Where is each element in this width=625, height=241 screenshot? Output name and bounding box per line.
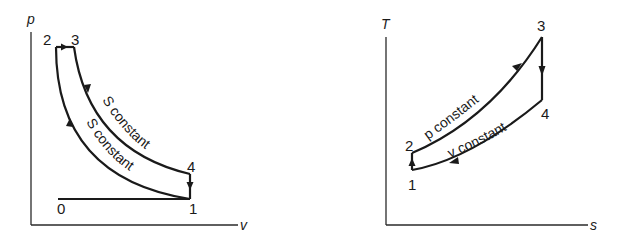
arrow-down-icon — [539, 66, 546, 76]
pv-diagram: p v S constant S constant 2 3 4 1 0 — [26, 11, 248, 233]
s-axis-label: s — [590, 217, 597, 233]
pv-point-2: 2 — [43, 31, 51, 48]
thermo-cycle-figure: p v S constant S constant 2 3 4 1 0 — [0, 0, 625, 241]
ts-point-4: 4 — [541, 105, 549, 122]
pv-point-1: 1 — [189, 200, 197, 217]
pv-point-3: 3 — [71, 31, 79, 48]
ts-diagram: T s p constant v constant 2 1 3 4 — [381, 16, 597, 233]
arrow-down-icon — [187, 182, 194, 190]
ts-point-2: 2 — [405, 137, 413, 154]
pv-path-3-4 — [74, 47, 190, 174]
pv-point-0: 0 — [57, 200, 65, 217]
ts-point-1: 1 — [408, 176, 416, 193]
arrow-up-icon — [409, 158, 416, 166]
ts-lower-curve-label: v constant — [445, 118, 509, 160]
t-axis-label: T — [381, 16, 391, 32]
v-axis-label: v — [240, 217, 248, 233]
arrow-right-icon — [61, 44, 68, 51]
pv-point-4: 4 — [187, 158, 195, 175]
p-axis-label: p — [26, 11, 35, 27]
ts-axes: T s — [381, 16, 597, 233]
ts-point-3: 3 — [537, 17, 545, 34]
